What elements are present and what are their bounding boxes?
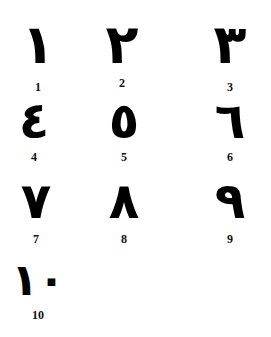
numeral-1: ١ 1 [0,18,78,95]
numeral-4: ٤ 4 [0,96,74,165]
numeral-label-5: 5 [84,150,164,165]
numeral-2: ٢ 2 [82,18,162,91]
numeral-8: ٨ 8 [84,176,164,247]
numeral-label-6: 6 [190,150,270,165]
numeral-label-7: 7 [0,232,76,247]
arabic-numeral-7: ٧ [0,176,76,226]
numeral-3: ٣ 3 [190,18,270,95]
numeral-5: ٥ 5 [84,96,164,165]
numeral-7: ٧ 7 [0,176,76,247]
numeral-label-10: 10 [0,308,78,323]
numeral-6: ٦ 6 [190,96,270,165]
numeral-label-4: 4 [0,150,74,165]
arabic-numeral-9: ٩ [190,176,270,226]
numeral-10: ١٠ 10 [0,258,78,323]
arabic-numeral-8: ٨ [84,176,164,226]
numeral-label-8: 8 [84,232,164,247]
arabic-numeral-4: ٤ [0,96,74,146]
arabic-numeral-5: ٥ [84,96,164,146]
numeral-9: ٩ 9 [190,176,270,247]
arabic-numeral-1: ١ [0,18,78,72]
arabic-numeral-2: ٢ [82,18,162,72]
numeral-label-9: 9 [190,232,270,247]
arabic-numeral-3: ٣ [190,18,270,72]
arabic-numeral-6: ٦ [190,96,270,146]
arabic-numeral-10: ١٠ [0,258,78,302]
numeral-label-2: 2 [82,76,162,91]
